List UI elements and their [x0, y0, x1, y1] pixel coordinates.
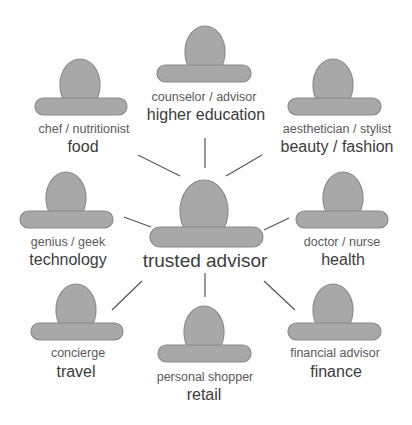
person-icon [158, 306, 251, 362]
domain-label: retail [187, 386, 222, 403]
role-label: doctor / nurse [304, 235, 380, 249]
connector-beauty-fashion [226, 155, 262, 176]
connector-finance [264, 281, 295, 310]
person-icon [31, 284, 123, 340]
connector-health [264, 218, 289, 230]
domain-label: travel [56, 363, 95, 380]
center-node: trusted advisor [143, 180, 268, 271]
role-label: financial advisor [290, 346, 380, 360]
trusted-advisor-diagram: trusted advisor counselor / advisor high… [0, 0, 412, 425]
domain-label: food [67, 138, 98, 155]
center-label: trusted advisor [143, 250, 268, 271]
person-icon [35, 59, 127, 115]
role-label: personal shopper [157, 370, 254, 384]
domain-label: health [321, 251, 365, 268]
connector-technology [124, 217, 151, 227]
role-label: concierge [51, 346, 105, 360]
node-beauty-fashion: aesthetician / stylist beauty / fashion [281, 59, 394, 155]
node-travel: concierge travel [31, 284, 123, 380]
node-retail: personal shopper retail [157, 306, 254, 403]
connector-travel [112, 281, 142, 310]
person-icon [157, 26, 251, 82]
role-label: counselor / advisor [152, 90, 257, 104]
connector-food [138, 155, 180, 176]
person-icon [288, 284, 381, 340]
person-icon [150, 180, 263, 247]
role-label: genius / geek [31, 235, 106, 249]
domain-label: beauty / fashion [281, 138, 394, 155]
node-food: chef / nutritionist food [35, 59, 130, 155]
domain-label: finance [310, 363, 362, 380]
domain-label: technology [29, 251, 106, 268]
person-icon [296, 172, 388, 228]
node-health: doctor / nurse health [296, 172, 388, 268]
person-icon [288, 59, 381, 115]
role-label: chef / nutritionist [38, 122, 130, 136]
node-technology: genius / geek technology [20, 172, 113, 268]
node-higher-education: counselor / advisor higher education [147, 26, 265, 123]
node-finance: financial advisor finance [288, 284, 381, 380]
domain-label: higher education [147, 106, 265, 123]
role-label: aesthetician / stylist [283, 122, 392, 136]
person-icon [20, 172, 113, 228]
